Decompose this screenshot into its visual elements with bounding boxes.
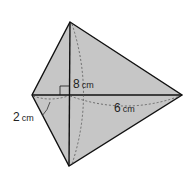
kite-shape (32, 22, 182, 166)
vertical-diagonal (69, 22, 70, 166)
label-8cm: 8cm (73, 77, 94, 91)
label-2cm: 2cm (13, 110, 34, 124)
kite-diagram: 8cm 6cm 2cm (0, 0, 196, 177)
label-6cm: 6cm (114, 101, 135, 115)
